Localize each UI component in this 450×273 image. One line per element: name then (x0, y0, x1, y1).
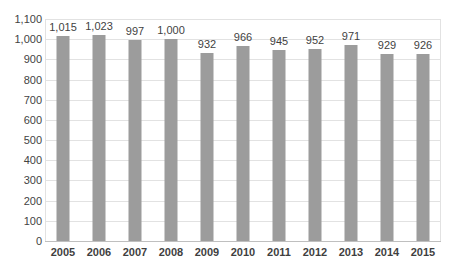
bar-column[interactable]: 926 (408, 19, 438, 241)
bar-column[interactable]: 1,015 (48, 19, 78, 241)
bar[interactable] (417, 54, 430, 241)
bar[interactable] (93, 35, 106, 241)
bar[interactable] (273, 50, 286, 241)
bar-chart: 01002003004005006007008009001,0001,100 1… (0, 0, 450, 273)
x-tick-label: 2006 (79, 246, 119, 259)
x-tick-label: 2014 (367, 246, 407, 259)
bar-value-label: 966 (234, 32, 252, 43)
bar-value-label: 932 (198, 39, 216, 50)
bar-column[interactable]: 945 (264, 19, 294, 241)
plot-right-border (440, 19, 441, 241)
bar-column[interactable]: 1,000 (156, 19, 186, 241)
bar[interactable] (201, 53, 214, 241)
y-tick-label: 500 (0, 135, 42, 146)
bar[interactable] (129, 40, 142, 241)
bar-column[interactable]: 932 (192, 19, 222, 241)
bar[interactable] (57, 36, 70, 241)
bar-column[interactable]: 971 (336, 19, 366, 241)
bar[interactable] (345, 45, 358, 241)
bar-column[interactable]: 966 (228, 19, 258, 241)
plot-area: 1,0151,0239971,000932966945952971929926 (45, 19, 441, 241)
bar-value-label: 971 (342, 31, 360, 42)
bar[interactable] (165, 39, 178, 241)
bar-column[interactable]: 952 (300, 19, 330, 241)
bar-value-label: 926 (414, 40, 432, 51)
bar[interactable] (237, 46, 250, 241)
x-tick-label: 2008 (151, 246, 191, 259)
x-axis: 2005200620072008200920102011201220132014… (45, 246, 441, 266)
bar-value-label: 1,015 (49, 22, 77, 33)
bar-column[interactable]: 1,023 (84, 19, 114, 241)
y-tick-label: 0 (0, 236, 42, 247)
bar-value-label: 1,023 (85, 21, 113, 32)
bar-value-label: 929 (378, 40, 396, 51)
y-tick-label: 600 (0, 115, 42, 126)
bar[interactable] (309, 49, 322, 241)
x-axis-line (45, 241, 441, 242)
y-axis-line (45, 19, 46, 241)
bar-value-label: 952 (306, 35, 324, 46)
bar-value-label: 945 (270, 36, 288, 47)
bar-column[interactable]: 929 (372, 19, 402, 241)
y-tick-label: 800 (0, 75, 42, 86)
bar-value-label: 1,000 (157, 25, 185, 36)
x-tick-label: 2011 (259, 246, 299, 259)
x-tick-label: 2012 (295, 246, 335, 259)
y-tick-label: 400 (0, 155, 42, 166)
x-tick-label: 2007 (115, 246, 155, 259)
x-tick-label: 2013 (331, 246, 371, 259)
x-tick-label: 2015 (403, 246, 443, 259)
y-tick-label: 1,000 (0, 34, 42, 45)
x-tick-label: 2010 (223, 246, 263, 259)
x-tick-label: 2009 (187, 246, 227, 259)
y-tick-label: 1,100 (0, 14, 42, 25)
y-tick-label: 900 (0, 54, 42, 65)
y-tick-label: 200 (0, 196, 42, 207)
bar[interactable] (381, 54, 394, 241)
bar-column[interactable]: 997 (120, 19, 150, 241)
y-tick-label: 100 (0, 216, 42, 227)
y-tick-label: 700 (0, 95, 42, 106)
y-tick-label: 300 (0, 175, 42, 186)
bar-value-label: 997 (126, 26, 144, 37)
x-tick-label: 2005 (43, 246, 83, 259)
